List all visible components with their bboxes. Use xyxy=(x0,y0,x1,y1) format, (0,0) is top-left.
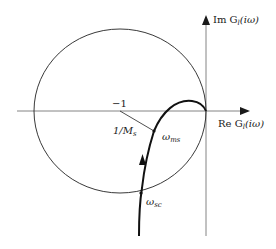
omega-sc-label: ωsc xyxy=(146,196,162,209)
nyquist-curve xyxy=(139,101,206,236)
imag-axis-label: Im Gl(iω) xyxy=(213,14,259,27)
omega-ms-label: ωms xyxy=(162,131,181,144)
direction-arrow-icon xyxy=(139,154,146,165)
nyquist-diagram: Im Gl(iω) Re Gl(iω) −1 1/Ms ωms ωsc xyxy=(0,0,276,249)
real-axis-label: Re Gl(iω) xyxy=(218,118,264,131)
radius-label: 1/Ms xyxy=(113,125,137,138)
critical-point-label: −1 xyxy=(112,98,127,109)
